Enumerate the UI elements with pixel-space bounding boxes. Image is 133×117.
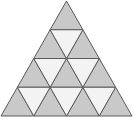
triangle-diagram [0, 0, 133, 117]
upward-triangle [50, 1, 83, 30]
